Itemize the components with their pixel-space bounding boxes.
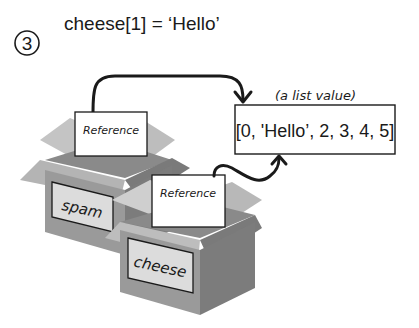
list-caption: (a list value)	[275, 88, 356, 103]
reference-card-cheese	[152, 175, 225, 227]
variable-box-cheese: Reference cheese	[105, 175, 262, 315]
list-contents: [0, 'Hello’, 2, 3, 4, 5]	[236, 121, 395, 141]
spam-reference-arrow	[93, 76, 243, 113]
step-header: 3 cheese[1] = ‘Hello’	[15, 13, 220, 55]
list-value: (a list value) [0, 'Hello’, 2, 3, 4, 5]	[235, 88, 395, 154]
step-code: cheese[1] = ‘Hello’	[64, 13, 220, 34]
diagram-canvas: 3 cheese[1] = ‘Hello’ (a list value) [0,…	[0, 0, 419, 328]
reference-card-label: Reference	[160, 187, 216, 200]
step-number: 3	[22, 33, 33, 54]
reference-card-label: Reference	[83, 124, 139, 137]
